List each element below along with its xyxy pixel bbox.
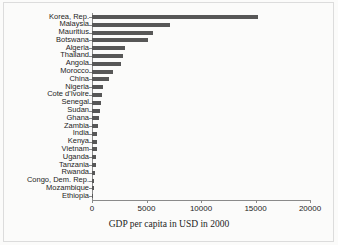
y-tick-mark (89, 111, 92, 112)
y-tick-mark (89, 87, 92, 88)
x-tick-label: 0 (90, 204, 94, 213)
bar (92, 109, 100, 113)
bar (92, 124, 98, 128)
x-tick-label: 5000 (138, 204, 156, 213)
y-tick-mark (89, 165, 92, 166)
bar (92, 70, 113, 74)
y-tick-mark (89, 134, 92, 135)
y-tick-mark (89, 188, 92, 189)
bar (92, 23, 170, 27)
bar (92, 101, 101, 105)
y-tick-mark (89, 40, 92, 41)
bar (92, 186, 94, 190)
bar (92, 54, 123, 58)
bar (92, 132, 97, 136)
y-tick-mark (89, 173, 92, 174)
bar (92, 194, 93, 198)
bar (92, 77, 109, 81)
bar (92, 163, 96, 167)
x-tick-label: 15000 (244, 204, 266, 213)
category-label: Ethiopia (62, 192, 89, 200)
bar (92, 116, 99, 120)
x-axis-title: GDP per capita in USD in 2000 (0, 219, 338, 229)
y-tick-mark (89, 17, 92, 18)
chart-figure: Korea, Rep.MalaysiaMauritiusBotswanaAlge… (0, 0, 338, 245)
bar (92, 62, 121, 66)
plot-area (92, 13, 310, 200)
x-tick-label: 10000 (190, 204, 212, 213)
y-tick-mark (89, 48, 92, 49)
y-tick-mark (89, 33, 92, 34)
x-tick-mark (92, 200, 93, 203)
bar (92, 46, 125, 50)
bar (92, 179, 94, 183)
y-tick-mark (89, 64, 92, 65)
bar (92, 155, 96, 159)
bar (92, 147, 97, 151)
x-tick-mark (147, 200, 148, 203)
bar (92, 15, 258, 19)
y-tick-mark (89, 103, 92, 104)
y-tick-mark (89, 25, 92, 26)
category-axis-labels: Korea, Rep.MalaysiaMauritiusBotswanaAlge… (0, 13, 89, 201)
y-tick-mark (89, 72, 92, 73)
bar (92, 93, 102, 97)
y-tick-mark (89, 79, 92, 80)
y-tick-mark (89, 181, 92, 182)
bar (92, 171, 95, 175)
x-tick-mark (201, 200, 202, 203)
bar (92, 31, 153, 35)
y-tick-mark (89, 157, 92, 158)
bar (92, 140, 97, 144)
x-tick-mark (256, 200, 257, 203)
bar (92, 85, 103, 89)
y-tick-mark (89, 126, 92, 127)
x-tick-mark (310, 200, 311, 203)
y-tick-mark (89, 118, 92, 119)
y-tick-mark (89, 196, 92, 197)
y-tick-mark (89, 149, 92, 150)
y-tick-mark (89, 56, 92, 57)
bar (92, 38, 148, 42)
y-tick-mark (89, 95, 92, 96)
x-tick-label: 20000 (299, 204, 321, 213)
y-tick-mark (89, 142, 92, 143)
